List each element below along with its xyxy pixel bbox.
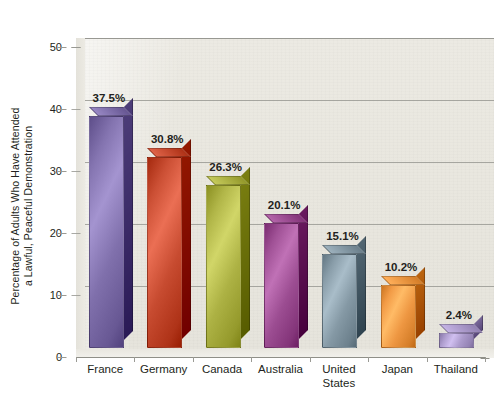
bar-value-label: 30.8%	[151, 133, 184, 145]
bar-value-label: 26.3%	[209, 161, 242, 173]
bar-front-face	[206, 185, 241, 348]
gridline	[85, 38, 494, 39]
bar-front-face	[147, 157, 182, 348]
bar-canada[interactable]: 26.3%	[206, 185, 241, 348]
x-axis-tick-mark	[251, 357, 252, 362]
plot-area: 37.5%30.8%26.3%20.1%15.1%10.2%2.4%	[76, 38, 494, 357]
bar-front-face	[264, 223, 299, 348]
bar-front-face	[322, 254, 357, 348]
x-axis-tick-mark	[76, 357, 77, 362]
bar-germany[interactable]: 30.8%	[147, 157, 182, 348]
x-axis-tick-label: Germany	[134, 362, 192, 376]
bar-thailand[interactable]: 2.4%	[439, 333, 474, 348]
x-axis-tick-label: UnitedStates	[310, 362, 368, 390]
x-axis-tick-mark	[485, 357, 486, 362]
x-axis-tick-mark	[193, 357, 194, 362]
bar-side-face	[124, 98, 133, 340]
bar-side-face	[182, 139, 191, 339]
plot-left-wall	[76, 38, 85, 358]
bar-value-label: 37.5%	[93, 92, 126, 104]
x-axis-tick-label: Japan	[368, 362, 426, 376]
bar-front-face	[439, 333, 474, 348]
bar-side-face	[299, 205, 308, 339]
bar-value-label: 15.1%	[326, 230, 359, 242]
bar-united-states[interactable]: 15.1%	[322, 254, 357, 348]
chart-figure: Percentage of Adults Who Have Attended a…	[0, 0, 502, 412]
x-axis-tick-label: Thailand	[427, 362, 485, 376]
bar-value-label: 2.4%	[446, 309, 472, 321]
bar-front-face	[89, 116, 124, 349]
bar-value-label: 10.2%	[385, 261, 418, 273]
x-axis-tick-mark	[368, 357, 369, 362]
x-axis-tick-label: France	[76, 362, 134, 376]
bar-france[interactable]: 37.5%	[89, 116, 124, 349]
x-axis-tick-labels: FranceGermanyCanadaAustraliaUnitedStates…	[76, 362, 494, 402]
x-axis-tick-mark	[134, 357, 135, 362]
y-axis-title-line-1: Percentage of Adults Who Have Attended	[9, 108, 23, 305]
bar-front-face	[381, 285, 416, 348]
x-axis-tick-mark	[310, 357, 311, 362]
bar-value-label: 20.1%	[268, 199, 301, 211]
x-axis-tick-mark	[427, 357, 428, 362]
y-axis-tick-labels: 01020304050	[34, 0, 62, 412]
x-axis-tick-label: Australia	[251, 362, 309, 376]
x-axis-tick-label: Canada	[193, 362, 251, 376]
bar-japan[interactable]: 10.2%	[381, 285, 416, 348]
plot-floor	[76, 349, 494, 358]
bar-side-face	[241, 167, 250, 339]
gridline	[85, 100, 494, 101]
bar-australia[interactable]: 20.1%	[264, 223, 299, 348]
